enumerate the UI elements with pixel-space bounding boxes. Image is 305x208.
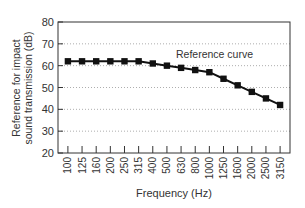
data-point-square-marker <box>234 82 240 88</box>
series-line <box>68 61 280 105</box>
x-tick-label: 3150 <box>275 157 286 180</box>
x-tick-label: 2500 <box>260 157 271 180</box>
x-tick-label: 1000 <box>204 157 215 180</box>
grid-lines <box>58 44 290 131</box>
y-tick-label: 70 <box>42 38 54 50</box>
y-tick-label: 50 <box>42 82 54 94</box>
x-tick-label: 250 <box>119 157 130 174</box>
data-point-square-marker <box>79 58 85 64</box>
data-point-square-marker <box>93 58 99 64</box>
y-axis-label-line2: sound transmission (dB) <box>22 31 34 144</box>
y-tick-label: 60 <box>42 60 54 72</box>
x-tick-label: 500 <box>161 157 172 174</box>
x-tick-label: 315 <box>133 157 144 174</box>
y-tick-label: 80 <box>42 16 54 28</box>
x-tick-label: 100 <box>62 157 73 174</box>
data-point-square-marker <box>135 58 141 64</box>
x-tick-label: 160 <box>91 157 102 174</box>
data-point-square-marker <box>178 65 184 71</box>
data-point-square-marker <box>150 60 156 66</box>
annotation-reference-curve: Reference curve <box>176 48 253 60</box>
data-point-square-marker <box>206 69 212 75</box>
x-tick-label: 2000 <box>246 157 257 180</box>
x-tick-label: 125 <box>77 157 88 174</box>
y-tick-label: 40 <box>42 103 54 115</box>
data-point-square-marker <box>220 76 226 82</box>
y-axis-label-line1: Reference for impact <box>10 39 22 137</box>
data-point-square-marker <box>263 95 269 101</box>
data-point-square-marker <box>249 89 255 95</box>
x-tick-label: 800 <box>190 157 201 174</box>
data-point-square-marker <box>65 58 71 64</box>
plot-area-frame <box>58 22 290 153</box>
x-axis: 1001251602002503154005006308001000125016… <box>62 146 285 179</box>
data-point-square-marker <box>121 58 127 64</box>
chart: 20304050607080 1001251602002503154005006… <box>0 0 305 208</box>
x-tick-label: 200 <box>105 157 116 174</box>
y-axis: 20304050607080 <box>42 16 63 159</box>
y-tick-label: 30 <box>42 125 54 137</box>
x-tick-label: 1600 <box>232 157 243 180</box>
x-axis-label: Frequency (Hz) <box>136 187 212 199</box>
data-point-square-marker <box>192 67 198 73</box>
x-tick-label: 1250 <box>218 157 229 180</box>
data-point-square-marker <box>164 62 170 68</box>
data-point-square-marker <box>277 102 283 108</box>
x-tick-label: 630 <box>176 157 187 174</box>
data-point-square-marker <box>107 58 113 64</box>
y-tick-label: 20 <box>42 147 54 159</box>
x-tick-label: 400 <box>147 157 158 174</box>
